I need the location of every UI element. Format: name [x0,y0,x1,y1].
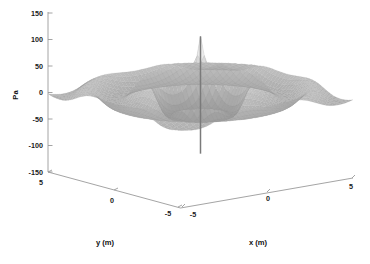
x-tick-label: 0 [266,194,270,203]
figure-panel: 150 100 50 0 -50 -100 -150 5 0 -5 -5 0 5… [0,0,370,264]
z-tick-label: -50 [33,115,43,124]
z-tick-label: 100 [31,35,43,44]
x-tick-label: 5 [349,182,353,191]
y-axis-title: y (m) [96,238,115,247]
surface-plot-3d: 150 100 50 0 -50 -100 -150 5 0 -5 -5 0 5… [0,0,370,264]
z-tick-label: 0 [39,88,43,97]
z-tick-label: 150 [31,9,43,18]
y-tick-label: 0 [110,196,114,205]
y-tick-label: 5 [39,178,43,187]
z-tick-label: -150 [29,168,43,177]
z-axis-ticks [48,13,53,172]
y-tick-labels: 5 0 -5 [39,178,171,218]
z-tick-label: -100 [29,141,43,150]
x-tick-labels: -5 0 5 [190,182,353,219]
x-axis-title: x (m) [249,238,268,247]
y-tick-label: -5 [165,209,171,218]
z-tick-labels: 150 100 50 0 -50 -100 -150 [29,9,43,177]
x-axis-line [181,178,354,208]
z-axis-title: Pa [11,90,20,100]
surface-mesh [48,36,353,153]
x-tick-label: -5 [190,210,196,219]
y-axis-ticks [48,170,182,207]
z-tick-label: 50 [35,62,43,71]
